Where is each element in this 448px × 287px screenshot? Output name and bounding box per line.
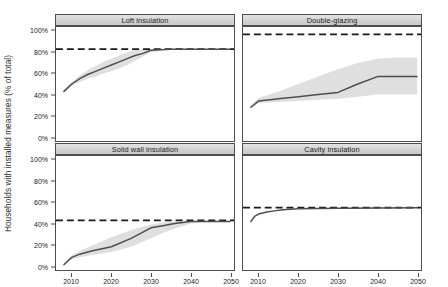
projection-line bbox=[251, 208, 417, 222]
plot-svg bbox=[243, 156, 421, 270]
x-tick-mark bbox=[338, 273, 339, 277]
panel-title: Double-glazing bbox=[307, 16, 358, 25]
x-tick-label: 2030 bbox=[330, 278, 346, 285]
y-tick-label: 80% bbox=[34, 48, 48, 55]
panel-cavity-insulation: Cavity insulation bbox=[242, 143, 422, 271]
y-tick-label: 100% bbox=[30, 156, 48, 163]
x-tick-label: 2010 bbox=[63, 278, 79, 285]
figure-root: Households with installed measures (% of… bbox=[0, 0, 448, 287]
panel-solid-wall-insulation: Solid wall insulation bbox=[55, 143, 235, 271]
y-axis-label-text: Households with installed measures (% of… bbox=[5, 55, 14, 232]
plot-svg bbox=[243, 27, 421, 141]
x-axis-col-1: 20102020203020402050 bbox=[242, 273, 422, 287]
y-tick-label: 0% bbox=[38, 263, 48, 270]
x-tick-label: 2040 bbox=[183, 278, 199, 285]
y-tick-label: 100% bbox=[30, 27, 48, 34]
uncertainty-band bbox=[251, 58, 417, 109]
y-axis-label: Households with installed measures (% of… bbox=[2, 0, 16, 287]
y-tick-label: 60% bbox=[34, 199, 48, 206]
y-tick-label: 20% bbox=[34, 113, 48, 120]
y-tick-label: 20% bbox=[34, 242, 48, 249]
x-tick-mark bbox=[71, 273, 72, 277]
x-tick-mark bbox=[111, 273, 112, 277]
x-tick-mark bbox=[231, 273, 232, 277]
panel-strip-cavity-insulation: Cavity insulation bbox=[242, 143, 422, 155]
x-axis-col-0: 20102020203020402050 bbox=[55, 273, 235, 287]
panel-strip-solid-wall-insulation: Solid wall insulation bbox=[55, 143, 235, 155]
y-tick-label: 60% bbox=[34, 70, 48, 77]
x-tick-mark bbox=[418, 273, 419, 277]
panel-strip-double-glazing: Double-glazing bbox=[242, 14, 422, 26]
x-tick-mark bbox=[378, 273, 379, 277]
x-tick-label: 2040 bbox=[370, 278, 386, 285]
x-tick-mark bbox=[298, 273, 299, 277]
plot-area-cavity-insulation bbox=[242, 155, 422, 271]
y-tick-label: 80% bbox=[34, 177, 48, 184]
y-tick-label: 0% bbox=[38, 134, 48, 141]
y-axis-row-0: 0%20%40%60%80%100% bbox=[21, 26, 55, 142]
panel-loft-insulation: Loft insulation bbox=[55, 14, 235, 142]
plot-area-double-glazing bbox=[242, 26, 422, 142]
plot-svg bbox=[56, 27, 234, 141]
y-axis-row-1: 0%20%40%60%80%100% bbox=[21, 155, 55, 271]
panel-double-glazing: Double-glazing bbox=[242, 14, 422, 142]
panel-title: Loft insulation bbox=[121, 16, 168, 25]
x-tick-label: 2020 bbox=[290, 278, 306, 285]
plot-svg bbox=[56, 156, 234, 270]
uncertainty-band bbox=[64, 221, 230, 264]
y-tick-label: 40% bbox=[34, 220, 48, 227]
x-tick-label: 2030 bbox=[143, 278, 159, 285]
panel-title: Cavity insulation bbox=[304, 145, 360, 154]
x-tick-mark bbox=[258, 273, 259, 277]
plot-area-loft-insulation bbox=[55, 26, 235, 142]
uncertainty-band bbox=[64, 49, 230, 92]
x-tick-mark bbox=[191, 273, 192, 277]
x-tick-mark bbox=[151, 273, 152, 277]
plot-area-solid-wall-insulation bbox=[55, 155, 235, 271]
x-tick-label: 2010 bbox=[250, 278, 266, 285]
panel-strip-loft-insulation: Loft insulation bbox=[55, 14, 235, 26]
y-tick-label: 40% bbox=[34, 91, 48, 98]
x-tick-label: 2050 bbox=[223, 278, 239, 285]
x-tick-label: 2050 bbox=[410, 278, 426, 285]
panel-title: Solid wall insulation bbox=[112, 145, 179, 154]
x-tick-label: 2020 bbox=[103, 278, 119, 285]
